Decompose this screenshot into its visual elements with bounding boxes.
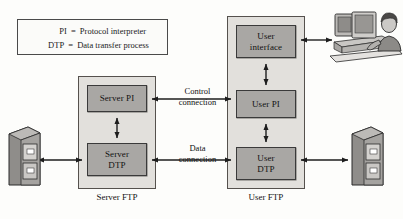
legend-abbreviation: DTP — [36, 38, 64, 52]
control-connection-line2: connection — [160, 97, 235, 108]
legend-definition: Protocol interpreter — [80, 24, 146, 38]
data-connection-line1: Data — [160, 143, 235, 154]
legend-row: DTP = Data transfer process — [36, 38, 149, 52]
file-cabinet-icon — [352, 127, 383, 185]
data-connection-label: Data connection — [160, 143, 235, 164]
legend-abbreviation: PI — [39, 24, 67, 38]
user-interface-box: Userinterface — [236, 25, 296, 58]
legend-equals-sign: = — [64, 38, 77, 52]
user-ftp-caption: User FTP — [227, 192, 305, 202]
file-cabinet-icon — [9, 127, 40, 185]
user-pi-box: User PI — [236, 90, 296, 118]
server-ftp-caption: Server FTP — [78, 192, 156, 202]
legend-row: PI = Protocol interpreter — [39, 24, 146, 38]
data-connection-line2: connection — [160, 154, 235, 165]
user-dtp-box: UserDTP — [236, 147, 296, 180]
legend-equals-sign: = — [67, 24, 80, 38]
control-connection-line1: Control — [160, 86, 235, 97]
server-pi-box: Server PI — [87, 85, 147, 112]
user-at-computer-icon — [330, 12, 402, 62]
ftp-model-diagram: PI = Protocol interpreter DTP = Data tra… — [0, 0, 403, 219]
legend-definition: Data transfer process — [77, 38, 149, 52]
server-dtp-box: ServerDTP — [87, 143, 147, 176]
legend-box: PI = Protocol interpreter DTP = Data tra… — [17, 19, 168, 55]
control-connection-label: Control connection — [160, 86, 235, 107]
